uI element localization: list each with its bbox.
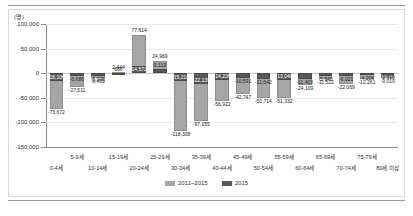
- bar-value-label-cumulative: -50,714: [255, 99, 272, 104]
- y-axis-tick-label: 100,000: [17, 21, 39, 27]
- bar-group[interactable]: [150, 24, 171, 147]
- bar-value-label-cumulative: -97,155: [193, 122, 210, 127]
- x-axis-category-label: 55-59세: [274, 153, 293, 161]
- x-axis-category-label: 5-9세: [71, 153, 84, 161]
- y-axis-tick-label: -50,000: [19, 95, 39, 101]
- x-axis-category-label: 15-19세: [109, 153, 128, 161]
- legend-label: 2011~2015: [178, 180, 208, 186]
- bar-value-label-current: 9,119: [154, 63, 166, 68]
- bar-value-label-cumulative: 77,614: [132, 28, 147, 33]
- bar-value-label-cumulative: -24,109: [296, 86, 313, 91]
- x-axis-line: [46, 147, 398, 148]
- y-axis-unit-label: (명): [14, 12, 24, 21]
- bar-value-label-current: -14,236: [214, 74, 231, 79]
- x-axis-category-label: 25-29세: [150, 153, 169, 161]
- x-axis-category-label: 30-34세: [171, 164, 190, 172]
- x-axis-category-label: 50-54세: [254, 164, 273, 172]
- bar-group[interactable]: [170, 24, 191, 147]
- bar-value-label-current: -10,591: [234, 79, 251, 84]
- x-axis-category-label: 45-49세: [233, 153, 252, 161]
- x-axis-category-label: 40-44세: [212, 164, 231, 172]
- plot-area: 100,00050,0000-50,000-100,000-150,000 -7…: [46, 24, 398, 147]
- bar-group[interactable]: [377, 24, 398, 147]
- x-axis-category-label: 0-4세: [50, 164, 63, 172]
- bar-value-label-current: -11,642: [255, 80, 272, 85]
- bar-value-label-current: -5,940: [318, 77, 332, 82]
- y-axis-tick-label: 50,000: [21, 46, 39, 52]
- x-axis-category-label: 20-24세: [130, 164, 149, 172]
- chart-page: (명) 100,00050,0000-50,000-100,000-150,00…: [0, 0, 413, 216]
- bar-value-label-current: -6,021: [339, 77, 353, 82]
- legend-label: 2015: [235, 180, 248, 186]
- bar-value-label-current: -11,403: [297, 80, 314, 85]
- legend-item[interactable]: 2011~2015: [165, 180, 208, 186]
- bar-current[interactable]: [153, 69, 167, 73]
- bar-group[interactable]: [129, 24, 150, 147]
- bar-value-label-current: -6,686: [70, 77, 84, 82]
- legend-swatch: [165, 181, 175, 186]
- x-axis-category-label: 75-79세: [357, 153, 376, 161]
- bar-value-label-current: -5,098: [91, 77, 105, 82]
- bar-value-label-cumulative: -42,747: [234, 95, 251, 100]
- x-axis-category-label: 10-14세: [88, 164, 107, 172]
- bar-group[interactable]: [357, 24, 378, 147]
- bar-group[interactable]: [67, 24, 88, 147]
- bar-group[interactable]: [253, 24, 274, 147]
- bar-group[interactable]: [232, 24, 253, 147]
- bar-value-label-cumulative: -22,069: [338, 85, 355, 90]
- bar-value-label-current: 886: [114, 67, 122, 72]
- y-axis-tick-label: 0: [36, 70, 39, 76]
- bar-value-label-current: -15,210: [172, 75, 189, 80]
- bar-value-label-cumulative: -51,332: [276, 99, 293, 104]
- bar-value-label-current: -13,040: [276, 74, 293, 79]
- x-axis-category-label: 65-69세: [316, 153, 335, 161]
- bar-value-label-current: 14,572: [132, 67, 147, 72]
- bar-group[interactable]: [191, 24, 212, 147]
- y-axis-tick-label: -150,000: [15, 144, 39, 150]
- bar-value-label-current: -22,139: [193, 78, 210, 83]
- top-divider: [8, 5, 405, 6]
- bar-value-label-cumulative: -118,308: [171, 132, 190, 137]
- bar-group[interactable]: [108, 24, 129, 147]
- x-axis-category-label: 70-74세: [337, 164, 356, 172]
- x-axis-categories: 0-4세5-9세10-14세15-19세20-24세25-29세30-34세35…: [46, 149, 398, 179]
- bar-group[interactable]: [46, 24, 67, 147]
- bar-value-label-cumulative: -27,511: [69, 88, 86, 93]
- bar-current[interactable]: [112, 73, 126, 75]
- bar-value-label-current: -4,206: [360, 76, 374, 81]
- x-axis-category-label: 35-39세: [192, 153, 211, 161]
- bar-value-label-cumulative: -73,672: [48, 110, 65, 115]
- bar-value-label-cumulative: 24,969: [152, 54, 167, 59]
- chart-legend: 2011~20152015: [0, 180, 413, 186]
- bar-series-container: -73,672-16,106-27,511-6,686-9,409-5,0982…: [46, 24, 398, 147]
- x-axis-category-label: 80세 이상: [376, 164, 399, 172]
- legend-swatch: [222, 181, 232, 186]
- bar-value-label-current: -16,106: [48, 75, 65, 80]
- x-axis-category-label: 60-64세: [295, 164, 314, 172]
- bottom-divider: [8, 200, 405, 201]
- bar-group[interactable]: [212, 24, 233, 147]
- bar-group[interactable]: [87, 24, 108, 147]
- bar-cumulative[interactable]: [174, 73, 188, 131]
- bar-group[interactable]: [315, 24, 336, 147]
- y-axis-tick-label: -100,000: [15, 119, 39, 125]
- bar-value-label-cumulative: -56,922: [214, 102, 231, 107]
- legend-item[interactable]: 2015: [222, 180, 248, 186]
- bar-value-label-current: -2,519: [381, 75, 395, 80]
- bar-group[interactable]: [274, 24, 295, 147]
